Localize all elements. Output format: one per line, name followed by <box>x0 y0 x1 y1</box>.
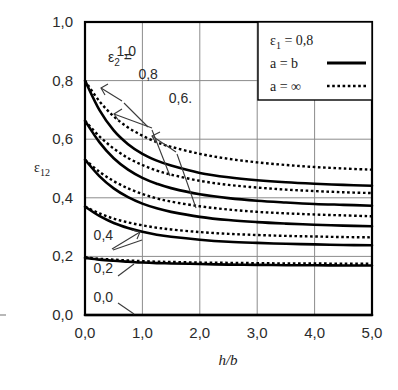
y-tick-label-3: 0,6 <box>52 130 73 147</box>
epsilon12-vs-hb-chart: ε1 = 0,8 a = b a = ∞ 0,01,02,03,04,05,0 … <box>0 0 398 390</box>
legend-entry-1-label: a = ∞ <box>270 79 301 94</box>
y-tick-label-4: 0,8 <box>52 72 73 89</box>
curve-label-2: 0,6. <box>169 90 192 106</box>
x-tick-label-5: 5,0 <box>362 324 383 341</box>
curve-label-3: 0,4 <box>94 227 114 243</box>
curve-label-4: 0,2 <box>94 260 114 276</box>
curve-label-0: 1,0 <box>117 43 137 59</box>
curve-label-5: 0,0 <box>94 289 114 305</box>
x-tick-label-2: 2,0 <box>189 324 210 341</box>
x-axis-title: h/b <box>218 352 238 368</box>
legend: ε1 = 0,8 a = b a = ∞ <box>258 22 372 100</box>
x-tick-label-3: 3,0 <box>247 324 268 341</box>
chart-figure: ε1 = 0,8 a = b a = ∞ 0,01,02,03,04,05,0 … <box>0 0 398 390</box>
legend-entry-0-label: a = b <box>270 56 298 71</box>
y-tick-label-5: 1,0 <box>52 13 73 30</box>
x-tick-label-4: 4,0 <box>304 324 325 341</box>
x-tick-label-0: 0,0 <box>75 324 96 341</box>
y-tick-label-1: 0,2 <box>52 247 73 264</box>
y-tick-label-0: 0,0 <box>52 306 73 323</box>
curve-label-1: 0,8 <box>138 66 158 82</box>
y-tick-label-2: 0,4 <box>52 189 73 206</box>
x-tick-label-1: 1,0 <box>132 324 153 341</box>
